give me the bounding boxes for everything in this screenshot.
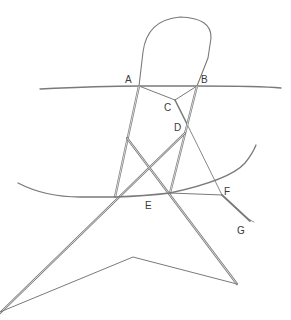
geometric-diagram: A B C D E F G (0, 0, 291, 320)
label-a: A (125, 74, 132, 85)
segment-c-d (175, 100, 187, 124)
label-d: D (174, 122, 181, 133)
segment-e-f (170, 193, 222, 195)
label-f: F (224, 186, 230, 197)
label-b: B (201, 74, 208, 85)
horizontal-line-ab (40, 86, 281, 89)
label-g: G (237, 225, 245, 236)
segment-a-c (139, 86, 175, 100)
label-c: C (164, 102, 171, 113)
segment-f-g (222, 195, 250, 221)
label-e: E (145, 200, 152, 211)
bottom-zigzag (0, 257, 237, 312)
